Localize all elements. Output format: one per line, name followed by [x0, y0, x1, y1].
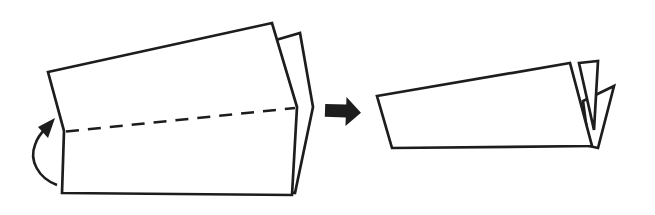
- paper-front-layer: [48, 23, 297, 195]
- paper-before-fold: [33, 23, 313, 195]
- folded-front-layer: [377, 63, 592, 148]
- fold-direction-arrow-icon: [33, 118, 57, 185]
- fold-arrow-arc: [33, 128, 57, 185]
- next-step-arrow-shape: [324, 96, 361, 126]
- origami-step-diagram: [0, 0, 655, 215]
- paper-after-fold: [377, 61, 614, 148]
- next-step-arrow-icon: [324, 96, 361, 126]
- origami-diagram-page: [0, 0, 655, 215]
